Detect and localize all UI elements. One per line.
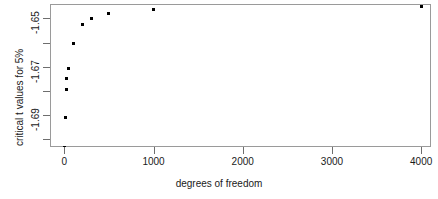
y-axis-title: critical t values for 5% bbox=[14, 49, 25, 146]
x-axis-tick-label: 3000 bbox=[321, 156, 343, 167]
scatter-data-layer bbox=[50, 4, 431, 147]
y-axis-tick-label: -1.65 bbox=[30, 12, 41, 35]
y-axis-tick bbox=[43, 43, 50, 44]
y-axis-tick-label: -1.67 bbox=[30, 60, 41, 83]
y-axis-tick bbox=[43, 115, 50, 116]
data-point bbox=[67, 67, 70, 70]
x-axis-tick bbox=[243, 147, 244, 154]
data-point bbox=[65, 88, 68, 91]
x-axis-tick-label: 0 bbox=[61, 156, 67, 167]
data-point bbox=[90, 17, 93, 20]
data-point bbox=[420, 5, 423, 8]
y-axis-tick bbox=[43, 91, 50, 92]
y-axis-tick bbox=[43, 139, 50, 140]
x-axis-tick-label: 4000 bbox=[410, 156, 432, 167]
y-axis-tick bbox=[43, 67, 50, 68]
data-point bbox=[64, 116, 67, 119]
x-axis-title: degrees of freedom bbox=[0, 178, 438, 189]
y-axis-tick bbox=[43, 18, 50, 19]
x-axis-tick bbox=[421, 147, 422, 154]
x-axis-tick bbox=[64, 147, 65, 154]
x-axis-tick bbox=[154, 147, 155, 154]
x-axis-tick bbox=[332, 147, 333, 154]
chart-figure: -1.65-1.67-1.69 01000200030004000 critic… bbox=[0, 0, 438, 199]
data-point bbox=[81, 23, 84, 26]
x-axis-tick-label: 2000 bbox=[232, 156, 254, 167]
data-point bbox=[152, 8, 155, 11]
data-point bbox=[107, 12, 110, 15]
data-point bbox=[65, 77, 68, 80]
y-axis-tick-label: -1.69 bbox=[30, 108, 41, 131]
data-point bbox=[72, 42, 75, 45]
x-axis-tick-label: 1000 bbox=[142, 156, 164, 167]
